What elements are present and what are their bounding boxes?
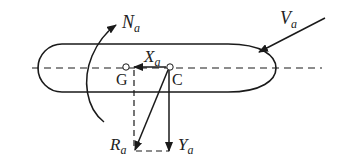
moment-arrow-Na (87, 25, 116, 122)
label-Ra: Ra (109, 135, 126, 157)
point-G-label: G (116, 71, 128, 88)
label-Va: Va (280, 8, 297, 31)
force-arrow-Ra (135, 70, 168, 150)
point-G-marker (123, 64, 129, 70)
label-Xa: Xa (143, 47, 160, 69)
label-Na: Na (121, 12, 140, 35)
point-C-marker (167, 64, 173, 70)
force-diagram: G C Na Va Xa Ya Ra (0, 0, 342, 166)
point-C-label: C (172, 71, 183, 88)
label-Ya: Ya (178, 135, 193, 157)
